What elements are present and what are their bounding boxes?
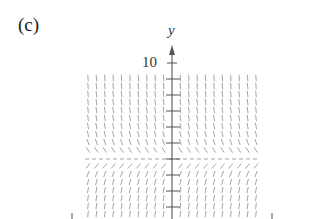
slope-segment [239,115,240,121]
slope-segment [94,164,98,169]
slope-segment [162,164,166,169]
slope-segment [146,171,148,177]
slope-segment [163,107,164,113]
slope-segment [230,179,232,185]
slope-segment [155,115,156,121]
slope-segment [179,171,181,177]
slope-segment [230,131,231,137]
slope-segment [130,107,131,113]
slope-segment [230,107,231,113]
slope-segment [129,179,131,185]
slope-segment [180,187,181,193]
slope-segment [213,171,215,177]
slope-segment [104,123,105,129]
slope-segment [180,195,181,201]
slope-segment [130,195,131,201]
slope-segment [146,203,147,209]
slope-segment [87,139,89,145]
slope-segment [113,203,114,209]
slope-segment [204,147,208,152]
slope-segment [147,91,148,97]
slope-segment [163,123,164,129]
slope-segment [146,99,147,105]
slope-segment [188,115,189,121]
slope-segment [230,171,232,177]
slope-segment [111,147,115,152]
slope-segment [138,131,139,137]
slope-segment [230,139,232,145]
slope-segment [222,123,223,129]
slope-segment [231,83,232,89]
slope-segment [96,211,97,217]
slope-segment [88,211,89,217]
slope-segment [222,115,223,121]
slope-segment [120,147,124,152]
slope-segment [146,211,147,217]
slope-segment [214,211,215,217]
slope-segment [120,164,124,169]
slope-segment [130,99,131,105]
slope-segment [195,164,199,169]
slope-segment [138,195,139,201]
slope-segment [180,83,181,89]
slope-segment [212,164,216,169]
slope-segment [222,203,223,209]
slope-segment [205,115,206,121]
slope-segment [188,123,189,129]
slope-segment [204,164,208,169]
slope-segment [113,123,114,129]
slope-segment [222,83,223,89]
slope-segment [104,187,105,193]
slope-segment [222,91,223,97]
slope-segment [96,83,97,89]
slope-segment [121,123,122,129]
slope-segment [162,171,164,177]
slope-segment [247,115,248,121]
slope-segment [255,139,257,145]
slope-segment [87,179,89,185]
slope-segment [136,164,140,169]
slope-segment [238,139,240,145]
slope-segment [96,187,97,193]
slope-segment [188,99,189,105]
slope-segment [138,99,139,105]
slope-segment [214,203,215,209]
slope-segment [163,211,164,217]
slope-segment [111,164,115,169]
slope-segment [188,139,190,145]
slope-segment [138,203,139,209]
slope-segment [112,171,114,177]
slope-segment [205,139,207,145]
slope-segment [105,83,106,89]
slope-segment [222,131,223,137]
slope-segment [87,131,88,137]
slope-segment [238,179,240,185]
slope-segment [138,179,140,185]
slope-segment [255,131,256,137]
slope-segment [154,139,156,145]
slope-segment [255,187,256,193]
slope-segment [188,203,189,209]
slope-segment [247,107,248,113]
slope-segment [214,195,215,201]
slope-segment [247,131,248,137]
slope-segment [146,187,147,193]
slope-segment [221,139,223,145]
slope-segment [96,179,98,185]
slope-segment [239,211,240,217]
slope-segment [96,107,97,113]
slope-segment [180,99,181,105]
slope-segment [246,171,248,177]
slope-segment [196,139,198,145]
slope-segment [222,195,223,201]
slope-segment [121,115,122,121]
slope-segment [256,83,257,89]
slope-segment [163,99,164,105]
slope-segment [104,195,105,201]
slope-segment [104,99,105,105]
slope-segment [138,211,139,217]
slope-segment [221,147,225,152]
slope-segment [121,195,122,201]
slope-segment [214,99,215,105]
slope-segment [87,123,88,129]
